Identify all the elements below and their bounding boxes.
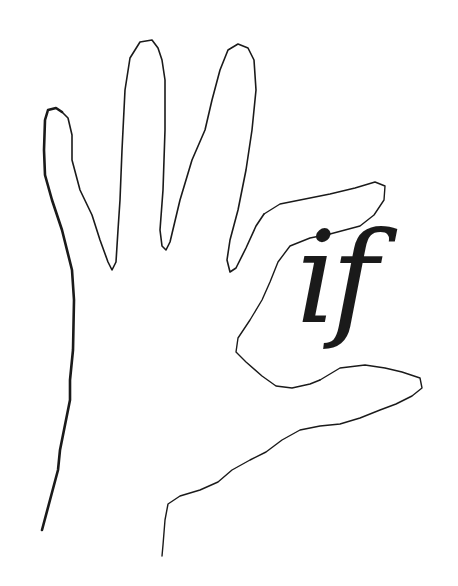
logo-text-if: if bbox=[296, 214, 372, 342]
hand-outline-icon bbox=[0, 0, 458, 586]
logo-canvas: if bbox=[0, 0, 458, 586]
